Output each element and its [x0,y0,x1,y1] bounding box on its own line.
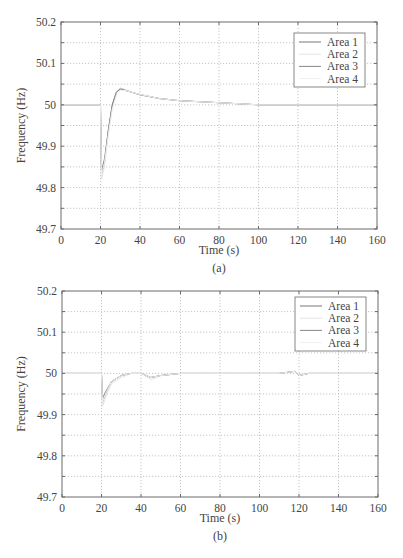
x-tick-label: 40 [134,234,146,246]
legend-label: Area 4 [327,73,358,85]
chart-panel-a: 02040608010012014016049.749.849.95050.15… [14,16,386,275]
x-tick-label: 120 [289,234,307,246]
x-axis-title: Time (s) [200,511,241,525]
y-tick-label: 50.2 [36,16,56,28]
legend: Area 1Area 2Area 3Area 4 [294,33,365,87]
x-tick-label: 60 [174,234,186,246]
x-tick-label: 40 [135,502,147,514]
y-tick-label: 50 [46,367,58,379]
x-tick-label: 100 [250,234,268,246]
legend-label: Area 3 [328,324,359,336]
legend-label: Area 1 [327,36,358,48]
x-axis-title: Time (s) [199,243,240,257]
y-tick-label: 50.1 [36,57,56,69]
x-tick-label: 140 [329,234,347,246]
x-tick-label: 140 [330,502,348,514]
legend-label: Area 3 [327,60,358,72]
y-axis-title: Frequency (Hz) [14,356,28,432]
x-tick-label: 160 [368,234,386,246]
y-axis-title: Frequency (Hz) [14,88,28,164]
series-line-area-4 [61,90,377,175]
y-tick-label: 49.7 [37,491,57,503]
y-tick-label: 49.8 [37,450,57,462]
figure: 02040608010012014016049.749.849.95050.15… [0,0,403,558]
x-tick-label: 100 [251,502,269,514]
x-tick-label: 60 [175,502,187,514]
x-tick-label: 0 [58,234,64,246]
x-tick-label: 160 [369,502,387,514]
legend: Area 1Area 2Area 3Area 4 [295,297,366,351]
x-tick-label: 120 [290,502,308,514]
legend-label: Area 4 [328,337,359,349]
y-tick-label: 50.1 [37,326,57,338]
legend-label: Area 2 [327,48,358,60]
x-tick-label: 20 [96,502,108,514]
x-tick-label: 20 [95,234,107,246]
chart-caption: (a) [212,261,225,275]
legend-label: Area 2 [328,312,359,324]
y-tick-label: 50.2 [37,285,57,297]
chart-caption: (b) [213,529,227,543]
y-tick-label: 49.7 [36,223,56,235]
y-tick-label: 49.9 [36,140,56,152]
legend-label: Area 1 [328,300,359,312]
chart-panel-b: 02040608010012014016049.749.849.95050.15… [14,285,387,543]
series-line-area-2 [62,371,378,406]
y-tick-label: 50 [45,99,57,111]
y-tick-label: 49.8 [36,182,56,194]
frequency-charts: 02040608010012014016049.749.849.95050.15… [0,0,403,558]
y-tick-label: 49.9 [37,409,57,421]
data-series [62,371,378,406]
x-tick-label: 0 [59,502,65,514]
